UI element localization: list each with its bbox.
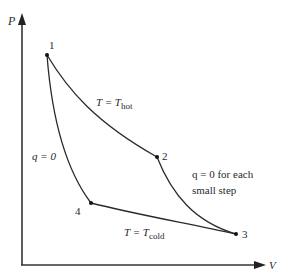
isotherm-hot-label-main: T = T <box>96 96 122 108</box>
point-labels: 1 2 3 4 <box>49 39 248 240</box>
isotherm-hot-label-sub: hot <box>121 101 133 111</box>
isotherm-hot-label: T = Thot <box>96 96 133 111</box>
isotherm-cold-label-main: T = T <box>124 226 150 238</box>
state-points <box>45 53 238 236</box>
adiabat-expansion-label-line2: small step <box>192 184 237 196</box>
point-4-label: 4 <box>75 205 81 217</box>
adiabat-compression-curve <box>47 55 91 203</box>
point-4-marker <box>89 201 93 205</box>
point-1-label: 1 <box>49 39 55 51</box>
isotherm-cold-label-sub: cold <box>149 231 165 241</box>
point-2-label: 2 <box>162 150 168 162</box>
point-1-marker <box>45 53 49 57</box>
adiabat-expansion-label-line1: q = 0 for each <box>192 168 254 180</box>
x-axis-label: V <box>269 259 277 271</box>
y-axis-arrow-icon <box>18 13 26 25</box>
isotherm-cold-label: T = Tcold <box>124 226 165 241</box>
x-axis-arrow-icon <box>254 261 266 269</box>
curve-labels: T = Thot q = 0 for each small step T = T… <box>32 96 254 241</box>
point-3-label: 3 <box>242 228 248 240</box>
point-3-marker <box>234 232 238 236</box>
adiabat-compression-label: q = 0 <box>32 150 56 162</box>
isotherm-cold-curve <box>91 203 236 234</box>
y-axis-label: P <box>7 14 16 28</box>
point-2-marker <box>155 155 159 159</box>
pv-diagram: P V 1 2 3 4 T = Thot q = 0 for each smal… <box>0 0 287 278</box>
